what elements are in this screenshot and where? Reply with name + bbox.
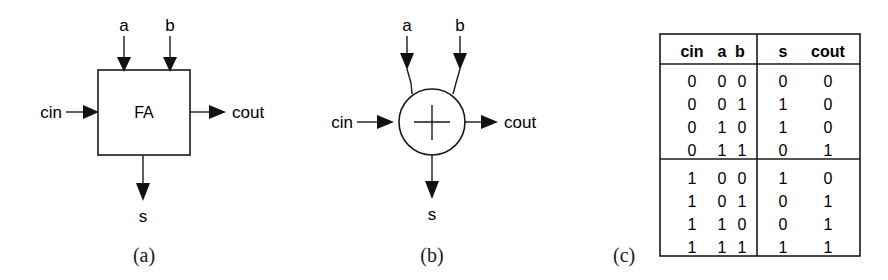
table-cell-b: 1 <box>738 96 747 113</box>
table-cell-cout: 0 <box>824 119 833 136</box>
panel-a-label-b: b <box>165 16 174 35</box>
table-cell-s: 0 <box>779 73 788 90</box>
panel-b-label-cout: cout <box>504 113 536 132</box>
panel-a-input-a-arrow <box>117 36 131 72</box>
table-cell-b: 1 <box>738 239 747 256</box>
panel-b-input-cin-arrow <box>357 115 394 129</box>
table-cell-b: 1 <box>738 193 747 210</box>
table-cell-a: 1 <box>718 239 727 256</box>
panel-c-caption: (c) <box>613 244 635 267</box>
panel-b-label-a: a <box>402 16 412 35</box>
table-cell-cin: 1 <box>688 193 697 210</box>
table-cell-cin: 0 <box>688 119 697 136</box>
panel-b-label-b: b <box>455 16 464 35</box>
figure-canvas: FA a b cin cout s (a) <box>0 0 888 280</box>
panel-a: FA a b cin cout s (a) <box>40 16 264 267</box>
panel-b-plus-icon <box>414 105 450 140</box>
full-adder-figure: FA a b cin cout s (a) <box>0 0 888 280</box>
table-cell-cin: 0 <box>688 73 697 90</box>
panel-b-label-cin: cin <box>331 113 353 132</box>
panel-c: cin a b s cout 0000000110010100110110010… <box>613 34 860 267</box>
panel-a-input-cin-arrow <box>66 105 99 119</box>
panel-b-input-b-arrow <box>453 36 467 94</box>
table-cell-s: 1 <box>779 96 788 113</box>
table-cell-s: 1 <box>779 119 788 136</box>
table-cell-b: 0 <box>738 73 747 90</box>
panel-a-label-s: s <box>139 207 148 226</box>
panel-c-rows: 0000000110010100110110010101011100111111 <box>688 73 833 256</box>
panel-c-header-cin: cin <box>680 43 703 60</box>
panel-c-header-a: a <box>718 43 727 60</box>
panel-b-output-cout-arrow <box>464 115 498 129</box>
table-cell-cout: 0 <box>824 73 833 90</box>
panel-b: a b cin cout s (b) <box>331 16 536 267</box>
table-cell-cout: 1 <box>824 216 833 233</box>
table-row: 00110 <box>688 96 833 113</box>
table-cell-b: 0 <box>738 216 747 233</box>
table-cell-b: 0 <box>738 170 747 187</box>
table-cell-a: 0 <box>718 96 727 113</box>
panel-a-output-cout-arrow <box>190 105 226 119</box>
table-row: 10010 <box>688 170 833 187</box>
table-cell-b: 0 <box>738 119 747 136</box>
table-cell-a: 1 <box>718 142 727 159</box>
table-cell-s: 0 <box>779 216 788 233</box>
table-cell-a: 0 <box>718 170 727 187</box>
panel-c-header-cout: cout <box>811 43 845 60</box>
panel-b-output-s-arrow <box>425 154 439 199</box>
panel-b-input-a-arrow <box>400 36 414 94</box>
table-row: 10101 <box>688 193 833 210</box>
table-cell-cout: 0 <box>824 170 833 187</box>
table-row: 01010 <box>688 119 833 136</box>
panel-a-label-cin: cin <box>40 103 62 122</box>
table-cell-s: 0 <box>779 142 788 159</box>
table-cell-s: 1 <box>779 170 788 187</box>
panel-a-caption: (a) <box>133 244 155 267</box>
panel-c-header-s: s <box>779 43 788 60</box>
table-row: 01101 <box>688 142 833 159</box>
panel-a-label-cout: cout <box>232 103 264 122</box>
table-cell-b: 1 <box>738 142 747 159</box>
table-cell-a: 1 <box>718 216 727 233</box>
table-cell-cout: 1 <box>824 142 833 159</box>
table-cell-a: 1 <box>718 119 727 136</box>
table-cell-s: 1 <box>779 239 788 256</box>
panel-a-block-label: FA <box>134 104 154 121</box>
table-cell-cin: 1 <box>688 216 697 233</box>
table-row: 11111 <box>688 239 833 256</box>
table-cell-s: 0 <box>779 193 788 210</box>
panel-a-label-a: a <box>119 16 129 35</box>
panel-b-caption: (b) <box>420 244 443 267</box>
panel-a-input-b-arrow <box>163 36 177 72</box>
table-cell-cin: 1 <box>688 239 697 256</box>
table-cell-a: 0 <box>718 193 727 210</box>
table-cell-cout: 0 <box>824 96 833 113</box>
panel-b-label-s: s <box>428 205 437 224</box>
table-cell-cout: 1 <box>824 239 833 256</box>
table-row: 00000 <box>688 73 833 90</box>
table-cell-cout: 1 <box>824 193 833 210</box>
panel-c-header-b: b <box>735 43 745 60</box>
table-cell-a: 0 <box>718 73 727 90</box>
panel-a-output-s-arrow <box>136 155 150 201</box>
table-cell-cin: 0 <box>688 96 697 113</box>
table-cell-cin: 0 <box>688 142 697 159</box>
table-cell-cin: 1 <box>688 170 697 187</box>
table-row: 11001 <box>688 216 833 233</box>
